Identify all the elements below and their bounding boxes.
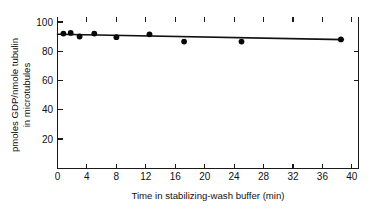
x-tick-label-20: 20 [199,171,211,182]
y-tick-label-60: 60 [42,75,54,86]
data-point [61,31,67,37]
y-tick-label-40: 40 [42,104,54,115]
x-tick-label-28: 28 [258,171,270,182]
trend-line [58,34,344,39]
y-axis-ticks-right [354,51,359,80]
x-axis-title: Time in stabilizing-wash buffer (min) [131,190,284,201]
x-tick-label-4: 4 [84,171,90,182]
data-point [147,31,153,37]
data-point [239,39,245,45]
y-tick-label-20: 20 [42,134,54,145]
y-axis-title-line1: pmoles GDP/nmole tubulin [9,38,20,152]
x-axis-ticks-top [87,17,352,22]
data-point [181,39,187,45]
x-axis-ticks [58,164,352,169]
y-axis-title-line2: in microtubules [21,63,32,128]
x-tick-label-0: 0 [55,171,61,182]
x-axis-tick-labels: 0 4 8 12 16 20 24 28 32 36 40 [55,171,358,182]
y-axis-ticks [58,22,63,139]
y-axis-tick-labels: 20 40 60 80 100 [36,17,53,145]
y-tick-label-100: 100 [36,17,53,28]
data-point [338,37,344,43]
y-axis-title: pmoles GDP/nmole tubulin in microtubules [9,38,32,152]
data-point [91,31,97,37]
x-tick-label-16: 16 [170,171,182,182]
data-point [114,34,120,40]
chart-figure: 20 40 60 80 100 [0,0,372,210]
data-point [68,30,74,36]
data-point [77,34,83,40]
x-tick-label-36: 36 [317,171,329,182]
x-tick-label-32: 32 [287,171,299,182]
x-tick-label-8: 8 [114,171,120,182]
x-tick-label-24: 24 [229,171,241,182]
scatter-plot: 20 40 60 80 100 [0,0,372,210]
y-tick-label-80: 80 [42,46,54,57]
x-tick-label-12: 12 [140,171,152,182]
x-tick-label-40: 40 [346,171,358,182]
